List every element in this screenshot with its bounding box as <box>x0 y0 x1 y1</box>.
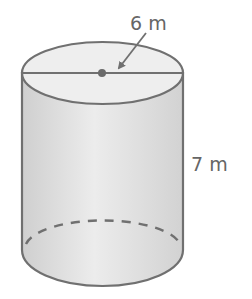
radius-label: 6 m <box>130 12 167 34</box>
center-dot <box>98 69 106 77</box>
height-label: 7 m <box>191 153 228 175</box>
cylinder-diagram: 6 m 7 m <box>0 0 252 299</box>
